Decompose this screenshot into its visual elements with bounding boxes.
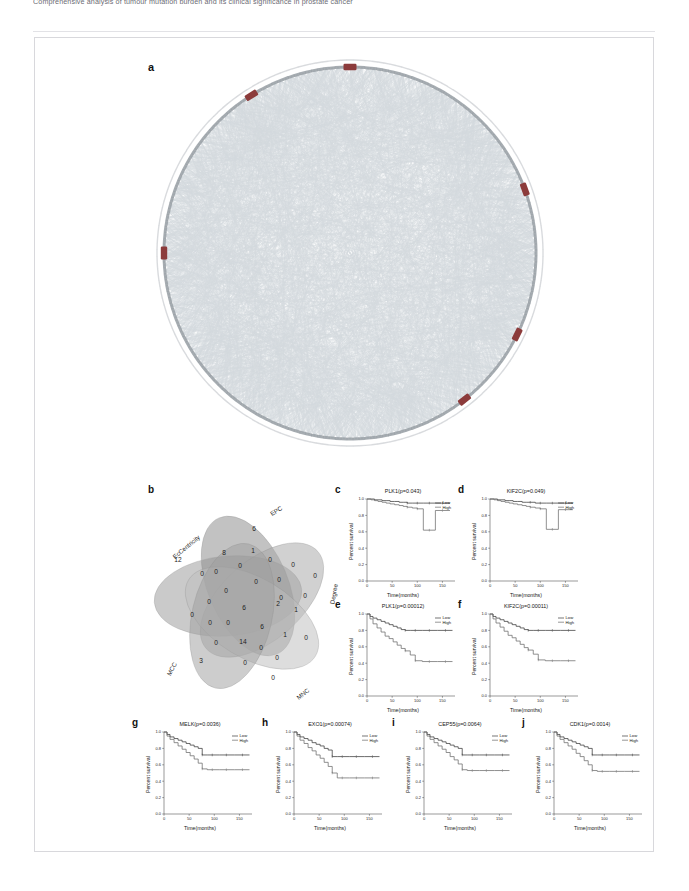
svg-text:100: 100 xyxy=(601,816,608,821)
svg-text:150: 150 xyxy=(236,816,243,821)
venn-region-count: 6 xyxy=(242,605,246,612)
svg-text:0.4: 0.4 xyxy=(358,546,364,551)
venn-region-count: 1 xyxy=(251,548,255,555)
panel-letter-d: d xyxy=(458,485,464,495)
km-ylabel-c: Percent survival xyxy=(349,523,354,560)
svg-text:100: 100 xyxy=(537,698,544,703)
venn-region-count: 0 xyxy=(226,620,230,627)
svg-text:1.0: 1.0 xyxy=(358,496,364,501)
km-ylabel-g: Percent survival xyxy=(146,756,151,793)
svg-text:0.8: 0.8 xyxy=(481,513,487,518)
venn-region-count: 8 xyxy=(222,550,226,557)
svg-text:0.8: 0.8 xyxy=(358,513,364,518)
svg-text:0.0: 0.0 xyxy=(481,693,487,698)
svg-text:150: 150 xyxy=(366,816,373,821)
venn-region-count: 6 xyxy=(260,624,264,631)
venn-region-count: 0 xyxy=(190,612,194,619)
panel-letter-g: g xyxy=(132,718,138,728)
km-xlabel-f: Time(months) xyxy=(470,708,582,713)
svg-text:150: 150 xyxy=(439,583,446,588)
svg-text:100: 100 xyxy=(537,583,544,588)
svg-text:0.2: 0.2 xyxy=(285,795,291,800)
svg-text:100: 100 xyxy=(414,698,421,703)
svg-text:0.4: 0.4 xyxy=(481,661,487,666)
svg-text:0: 0 xyxy=(553,816,556,821)
km-title-j: CDK1(p=0.0014) xyxy=(534,722,646,727)
km-ylabel-i: Percent survival xyxy=(406,756,411,793)
svg-text:0.6: 0.6 xyxy=(358,644,364,649)
venn-region-count: 0 xyxy=(277,577,281,584)
svg-text:0.6: 0.6 xyxy=(285,762,291,767)
km-ylabel-e: Percent survival xyxy=(349,638,354,675)
svg-text:0.0: 0.0 xyxy=(358,578,364,583)
svg-text:1.0: 1.0 xyxy=(155,729,161,734)
svg-text:High: High xyxy=(500,738,509,743)
svg-text:0.2: 0.2 xyxy=(415,795,421,800)
venn-region-count: 0 xyxy=(243,660,247,667)
venn-region-count: 0 xyxy=(259,645,263,652)
km-svg-e: 0.00.20.40.60.81.0050100150LowHigh xyxy=(347,611,459,707)
svg-text:0.0: 0.0 xyxy=(155,811,161,816)
venn-region-count: 0 xyxy=(207,599,211,606)
km-xlabel-h: Time(months) xyxy=(274,826,386,831)
km-title-c: PLK1(p=0.043) xyxy=(347,489,459,494)
svg-text:0.6: 0.6 xyxy=(545,762,551,767)
km-title-i: CEP55(p=0.0064) xyxy=(404,722,516,727)
km-ylabel-f: Percent survival xyxy=(472,638,477,675)
svg-text:100: 100 xyxy=(471,816,478,821)
svg-text:High: High xyxy=(443,505,452,510)
svg-text:0.6: 0.6 xyxy=(481,529,487,534)
panel-letter-h: h xyxy=(262,718,268,728)
venn-region-count: 0 xyxy=(208,620,212,627)
svg-text:0.4: 0.4 xyxy=(155,779,161,784)
km-plot-c: PLK1(p=0.043)0.00.20.40.60.81.0050100150… xyxy=(347,489,459,607)
venn-region-count: 0 xyxy=(304,635,308,642)
svg-text:0.4: 0.4 xyxy=(415,779,421,784)
km-title-f: KIF2C(p=0.00011) xyxy=(470,604,582,609)
venn-region-count: 0 xyxy=(238,563,242,570)
venn-region-count: 0 xyxy=(214,569,218,576)
svg-text:50: 50 xyxy=(513,698,518,703)
venn-region-count: 3 xyxy=(199,658,203,665)
svg-text:0: 0 xyxy=(366,698,369,703)
venn-region-count: 0 xyxy=(303,593,307,600)
svg-text:50: 50 xyxy=(317,816,322,821)
svg-text:High: High xyxy=(630,738,639,743)
km-svg-h: 0.00.20.40.60.81.0050100150LowHigh xyxy=(274,729,386,825)
km-title-d: KIF2C(p=0.049) xyxy=(470,489,582,494)
venn-region-count: 0 xyxy=(214,640,218,647)
svg-text:0: 0 xyxy=(489,698,492,703)
svg-text:50: 50 xyxy=(577,816,582,821)
svg-text:100: 100 xyxy=(414,583,421,588)
svg-text:1.0: 1.0 xyxy=(481,496,487,501)
svg-text:1.0: 1.0 xyxy=(481,611,487,616)
km-plot-d: KIF2C(p=0.049)0.00.20.40.60.81.005010015… xyxy=(470,489,582,607)
svg-text:High: High xyxy=(240,738,249,743)
svg-text:0.2: 0.2 xyxy=(155,795,161,800)
svg-text:0.2: 0.2 xyxy=(358,562,364,567)
km-svg-d: 0.00.20.40.60.81.0050100150LowHigh xyxy=(470,496,582,592)
km-svg-f: 0.00.20.40.60.81.0050100150LowHigh xyxy=(470,611,582,707)
km-plot-j: CDK1(p=0.0014)0.00.20.40.60.81.005010015… xyxy=(534,722,646,840)
svg-text:0: 0 xyxy=(163,816,166,821)
svg-text:0.4: 0.4 xyxy=(285,779,291,784)
km-title-h: EXO1(p=0.00074) xyxy=(274,722,386,727)
venn-region-count: 0 xyxy=(200,571,204,578)
svg-text:0.0: 0.0 xyxy=(545,811,551,816)
svg-text:50: 50 xyxy=(513,583,518,588)
svg-text:50: 50 xyxy=(447,816,452,821)
panel-letter-c: c xyxy=(335,485,341,495)
svg-text:0.4: 0.4 xyxy=(358,661,364,666)
svg-text:0.0: 0.0 xyxy=(481,578,487,583)
svg-text:1.0: 1.0 xyxy=(285,729,291,734)
km-svg-i: 0.00.20.40.60.81.0050100150LowHigh xyxy=(404,729,516,825)
km-plot-h: EXO1(p=0.00074)0.00.20.40.60.81.00501001… xyxy=(274,722,386,840)
km-xlabel-j: Time(months) xyxy=(534,826,646,831)
network-graph-svg xyxy=(150,40,550,460)
svg-text:0.8: 0.8 xyxy=(481,628,487,633)
svg-text:0.8: 0.8 xyxy=(285,746,291,751)
venn-region-count: 0 xyxy=(275,655,279,662)
svg-text:1.0: 1.0 xyxy=(358,611,364,616)
km-xlabel-g: Time(months) xyxy=(144,826,256,831)
km-xlabel-d: Time(months) xyxy=(470,593,582,598)
